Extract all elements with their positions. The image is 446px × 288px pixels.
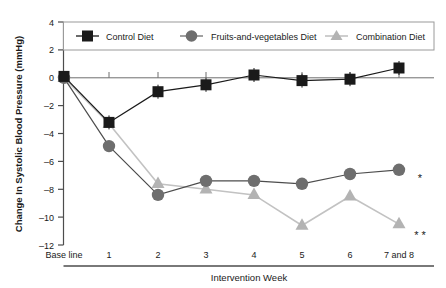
blood-pressure-line-chart: 4 2 0 –2 –4 –6 –8 –10 –12 Change In Syst… (0, 0, 446, 288)
square-marker (201, 79, 212, 90)
x-axis-title: Intervention Week (211, 272, 288, 283)
x-tick-label: 7 and 8 (384, 250, 414, 260)
circle-marker (344, 168, 356, 180)
square-marker (297, 75, 308, 86)
significance-annotation-single: * (418, 172, 423, 184)
circle-marker (248, 175, 260, 187)
x-tick-label: 3 (203, 250, 208, 260)
square-marker (59, 71, 70, 82)
y-axis-title: Change In Systolic Blood Pressure (mmHg) (13, 36, 24, 232)
y-tick-label: –2 (44, 101, 54, 111)
x-tick-label: 6 (347, 250, 352, 260)
circle-marker (393, 164, 405, 176)
x-tick-label: 1 (106, 250, 111, 260)
y-tick-label: 2 (49, 45, 54, 55)
series-fruits-and-vegetables-diet (58, 72, 405, 201)
significance-annotation-double: * * (414, 229, 426, 241)
x-tick-label: 2 (155, 250, 160, 260)
y-tick-label: 0 (49, 73, 54, 83)
circle-marker-icon (186, 30, 198, 42)
x-tick-label: 4 (251, 250, 256, 260)
y-tick-labels: 4 2 0 –2 –4 –6 –8 –10 –12 (39, 18, 54, 251)
triangle-marker (393, 217, 406, 229)
square-marker-icon (82, 31, 93, 42)
legend-label-combination: Combination Diet (356, 32, 426, 42)
y-tick-label: –12 (39, 241, 54, 251)
y-tick-label: –8 (44, 185, 54, 195)
series-control-diet (59, 61, 405, 129)
square-marker (249, 70, 260, 81)
square-marker (345, 74, 356, 85)
y-tick-label: –4 (44, 129, 54, 139)
chart-figure: 4 2 0 –2 –4 –6 –8 –10 –12 Change In Syst… (0, 0, 446, 288)
circle-marker (103, 140, 115, 152)
square-marker (394, 63, 405, 74)
y-axis-ticks (58, 22, 64, 245)
x-tick-label: 5 (299, 250, 304, 260)
circle-marker (152, 189, 164, 201)
square-marker (104, 117, 115, 128)
circle-marker (296, 178, 308, 190)
y-tick-label: 4 (49, 18, 54, 28)
y-tick-label: –6 (44, 157, 54, 167)
triangle-marker (248, 188, 261, 200)
x-tick-labels: Base line 1 2 3 4 5 6 7 and 8 (45, 250, 414, 260)
y-tick-label: –10 (39, 213, 54, 223)
square-marker (153, 86, 164, 97)
triangle-marker (344, 189, 357, 201)
legend-label-fruits: Fruits-and-vegetables Diet (211, 32, 317, 42)
circle-marker (200, 175, 212, 187)
legend-label-control: Control Diet (106, 32, 154, 42)
x-tick-label: Base line (45, 250, 82, 260)
triangle-marker (296, 218, 309, 230)
legend-item-control-diet[interactable]: Control Diet (76, 31, 154, 42)
